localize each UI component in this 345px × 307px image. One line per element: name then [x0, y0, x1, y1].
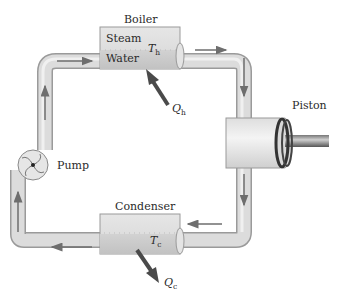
boiler-end-cap: [176, 43, 184, 69]
heat-in-arrow-shaft: [152, 80, 168, 105]
boiler-label: Boiler: [124, 13, 158, 26]
steam-label: Steam: [106, 32, 142, 45]
pump-hub: [31, 163, 35, 167]
heat-out-label: Qc: [164, 276, 177, 291]
pump-label: Pump: [57, 159, 89, 172]
heat-in-arrow: Qh: [146, 69, 186, 117]
condenser-end-cap: [176, 228, 184, 254]
heat-out-arrow: Qc: [137, 250, 177, 291]
pipe-outline: [18, 61, 244, 240]
condenser: Condenser Tc: [100, 200, 184, 254]
boiler: Boiler Steam Water Th: [100, 13, 184, 69]
pump: Pump: [18, 150, 89, 180]
water-label: Water: [106, 52, 140, 65]
condenser-label: Condenser: [115, 200, 176, 213]
heat-in-arrow-head: [146, 69, 159, 85]
piston-cylinder: [226, 118, 280, 168]
steam-cycle-diagram: Boiler Steam Water Th Qh Pump Piston: [0, 0, 345, 307]
piston-label: Piston: [292, 99, 327, 112]
heat-in-label: Qh: [172, 102, 186, 117]
